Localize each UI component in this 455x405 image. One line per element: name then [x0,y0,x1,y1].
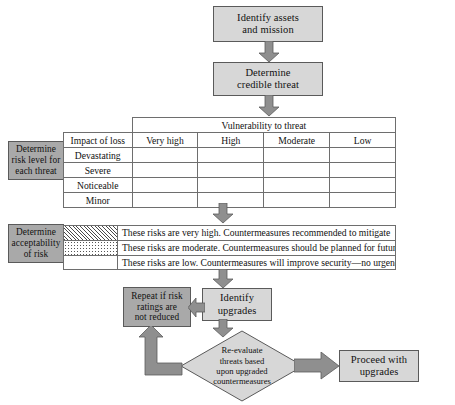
legend-swatch-none [63,255,118,270]
arrow-left-upgrades-to-repeat [188,297,205,318]
text-line: upgrades [360,366,399,377]
text-line: acceptability [12,238,61,248]
arrow-down-matrix-to-legend [212,203,234,224]
matrix-cell [330,148,396,163]
node-determine-acceptability[interactable]: Determine acceptability of risk [8,224,64,263]
matrix-cell [330,178,396,193]
matrix-row-label-severe: Severe [64,163,133,178]
text-line: Repeat if risk [131,291,182,301]
matrix-cell [132,178,198,193]
text-line: Identify assets [237,12,299,23]
node-identify-upgrades-label: Identify upgrades [216,292,259,317]
matrix-cell [132,193,198,208]
node-repeat-if-not-reduced[interactable]: Repeat if risk ratings are not reduced [123,287,191,327]
arrow-down-legend-to-upgrades [212,269,234,289]
text-line: not reduced [135,312,180,322]
matrix-row-label-noticeable: Noticeable [64,178,133,193]
text-line: Determine [16,227,56,237]
table-row: Noticeable [64,178,396,193]
text-line: upgrades [218,305,257,316]
text-line: and mission [242,24,294,35]
node-repeat-if-not-reduced-label: Repeat if risk ratings are not reduced [129,291,184,324]
matrix-header-row: Impact of loss Very high High Moderate L… [64,133,396,148]
matrix-empty-corner [64,118,133,133]
matrix-col-header-high: High [198,133,264,148]
matrix-cell [198,148,264,163]
legend-swatch-hatch [63,225,118,240]
legend-row-moderate: These risks are moderate. Countermeasure… [63,240,396,255]
node-proceed-with-upgrades-label: Proceed with upgrades [349,354,409,379]
matrix-col-header-low: Low [330,133,396,148]
text-line: Determine [16,144,56,154]
matrix-cell [264,193,330,208]
matrix-row-label-minor: Minor [64,193,133,208]
matrix-cell [132,148,198,163]
arrow-down-assets-to-threat [258,41,280,63]
text-line: credible threat [237,79,299,90]
text-line: each threat [15,166,57,176]
node-reevaluate-threats[interactable]: Re-evaluate threats based upon upgraded … [180,330,304,402]
matrix-superheader: Vulnerability to threat [132,118,396,133]
table-row: Severe [64,163,396,178]
matrix-cell [264,148,330,163]
matrix-row-header-title: Impact of loss [64,133,133,148]
legend-text-low: These risks are low. Countermeasures wil… [118,255,396,270]
flowchart-canvas: Identify assets and mission Determine cr… [0,0,455,405]
text-line: risk level for [12,155,61,165]
text-line: Identify [220,292,254,303]
legend-swatch-dots [63,240,118,255]
matrix-row-label-devastating: Devastating [64,148,133,163]
matrix-col-header-very-high: Very high [132,133,198,148]
node-proceed-with-upgrades[interactable]: Proceed with upgrades [339,350,419,382]
arrow-right-to-proceed [294,352,340,380]
matrix-cell [132,163,198,178]
matrix-col-header-moderate: Moderate [264,133,330,148]
legend-text-moderate: These risks are moderate. Countermeasure… [118,240,396,255]
node-determine-risk-level[interactable]: Determine risk level for each threat [8,141,64,180]
matrix-superheader-row: Vulnerability to threat [64,118,396,133]
text-line: of risk [24,249,49,259]
matrix-cell [264,178,330,193]
legend-text-very-high: These risks are very high. Countermeasur… [118,225,396,240]
matrix-cell [198,178,264,193]
matrix-cell [330,163,396,178]
text-line: Proceed with [351,354,407,365]
node-determine-acceptability-label: Determine acceptability of risk [10,227,63,260]
node-identify-upgrades[interactable]: Identify upgrades [202,288,272,321]
table-row: Devastating [64,148,396,163]
risk-matrix-body: Vulnerability to threat Impact of loss V… [64,118,396,208]
node-determine-credible-threat[interactable]: Determine credible threat [213,62,323,96]
text-line: Determine [245,67,290,78]
arrow-feedback-up-to-repeat [138,326,188,376]
risk-matrix-table: Vulnerability to threat Impact of loss V… [63,117,396,208]
node-determine-credible-threat-label: Determine credible threat [235,67,301,92]
matrix-cell [198,163,264,178]
risk-legend: These risks are very high. Countermeasur… [63,225,396,270]
node-identify-assets[interactable]: Identify assets and mission [213,6,323,42]
matrix-cell [264,163,330,178]
text-line: ratings are [137,302,177,312]
legend-row-low: These risks are low. Countermeasures wil… [63,255,396,270]
node-identify-assets-label: Identify assets and mission [235,12,301,37]
legend-row-very-high: These risks are very high. Countermeasur… [63,225,396,240]
matrix-cell [330,193,396,208]
arrow-down-threat-to-matrix [258,95,280,117]
node-determine-risk-level-label: Determine risk level for each threat [10,144,63,177]
